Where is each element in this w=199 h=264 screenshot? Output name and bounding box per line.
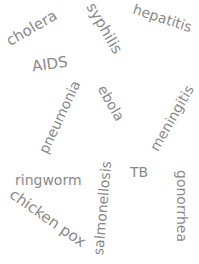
word-meningitis: meningitis [147,83,196,154]
word-aids: AIDS [31,54,69,74]
word-syphilis: syphilis [84,0,125,56]
word-ringworm: ringworm [15,173,82,187]
word-hepatitis: hepatitis [131,2,193,34]
word-pneumonia: pneumonia [36,78,82,155]
word-chicken-pox: chicken pox [7,186,88,249]
word-salmonellosis: salmonellosis [91,160,113,255]
word-ebola: ebola [96,83,127,123]
word-cholera: cholera [4,8,60,49]
word-gonorrhea: gonorrhea [175,170,189,242]
word-tb: TB [130,165,148,179]
